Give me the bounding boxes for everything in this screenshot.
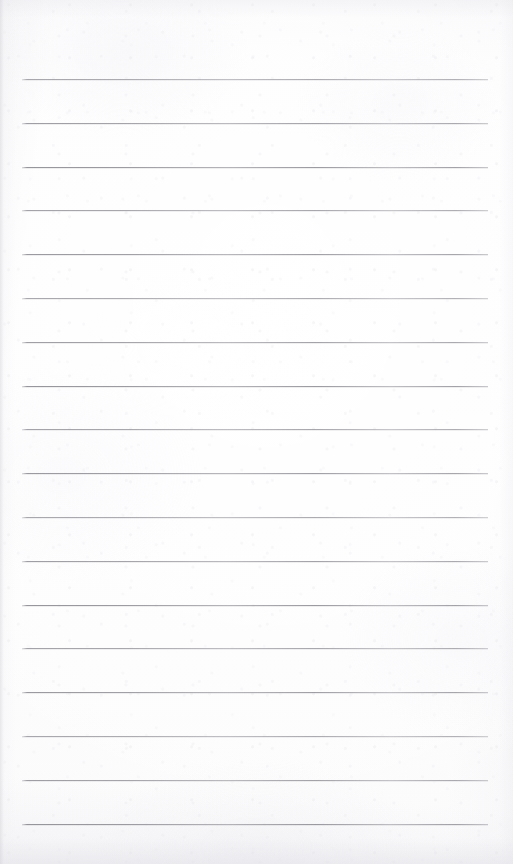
ruled-line: [22, 517, 488, 518]
ruled-line: [22, 386, 488, 387]
ruled-line: [22, 342, 488, 343]
lined-paper-page: [0, 0, 513, 864]
ruled-line: [22, 648, 488, 649]
ruled-line: [22, 123, 488, 124]
ruled-line: [22, 824, 488, 825]
ruled-line: [22, 605, 488, 606]
ruled-line: [22, 736, 488, 737]
ruled-line: [22, 167, 488, 168]
ruled-line: [22, 79, 488, 80]
ruled-lines-group: [0, 0, 513, 864]
ruled-line: [22, 429, 488, 430]
ruled-line: [22, 561, 488, 562]
ruled-line: [22, 254, 488, 255]
ruled-line: [22, 210, 488, 211]
ruled-line: [22, 298, 488, 299]
ruled-line: [22, 692, 488, 693]
ruled-line: [22, 780, 488, 781]
ruled-line: [22, 473, 488, 474]
